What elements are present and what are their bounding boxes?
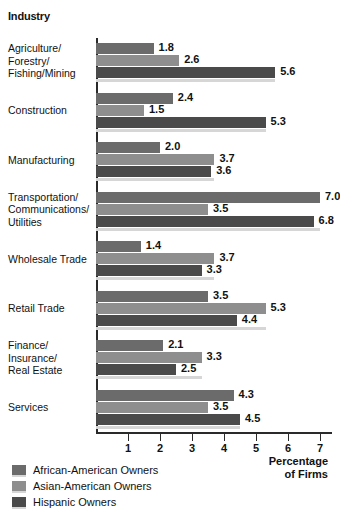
bar-value-label: 2.6 <box>184 53 199 65</box>
group-baseline-shadow <box>96 129 266 132</box>
bar-value-label: 3.5 <box>213 202 228 214</box>
legend-swatch <box>12 465 26 475</box>
bar[interactable] <box>96 142 160 153</box>
legend-item[interactable]: Asian-American Owners <box>12 478 158 493</box>
bar-value-label: 5.3 <box>271 115 286 127</box>
group-baseline-shadow <box>96 426 240 429</box>
bar-value-label: 2.0 <box>165 140 180 152</box>
category-label: Finance/Insurance/Real Estate <box>8 339 94 377</box>
bar[interactable] <box>96 315 237 326</box>
category-label: Manufacturing <box>8 154 94 167</box>
legend-item[interactable]: African-American Owners <box>12 462 158 477</box>
category-label-line: Fishing/Mining <box>8 67 94 80</box>
bar[interactable] <box>96 204 208 215</box>
bar-row: 1.8 <box>96 43 332 54</box>
group-baseline-shadow <box>96 178 214 181</box>
bar-row: 5.3 <box>96 303 332 314</box>
category-label-line: Manufacturing <box>8 154 94 167</box>
x-axis-tick <box>256 434 257 441</box>
category-label: Services <box>8 401 94 414</box>
x-axis-title-line1: Percentage <box>218 455 328 468</box>
category-label-line: Wholesale Trade <box>8 253 94 266</box>
bar-row: 1.5 <box>96 105 332 116</box>
category-label-line: Agriculture/ <box>8 42 94 55</box>
bar-row: 3.7 <box>96 154 332 165</box>
bar-row: 2.6 <box>96 55 332 66</box>
x-axis-tick-label: 5 <box>253 442 259 454</box>
bar-value-label: 4.3 <box>239 388 254 400</box>
chart-legend: African-American OwnersAsian-American Ow… <box>12 462 158 510</box>
bar-group: 1.82.65.6 <box>96 43 332 79</box>
bar-row: 4.5 <box>96 414 332 425</box>
category-label: Wholesale Trade <box>8 253 94 266</box>
bar-value-label: 3.7 <box>219 152 234 164</box>
x-axis-title: Percentage of Firms <box>218 455 328 481</box>
legend-swatch <box>12 481 26 491</box>
bar[interactable] <box>96 253 214 264</box>
bar[interactable] <box>96 241 141 252</box>
bar[interactable] <box>96 67 275 78</box>
bar-row: 6.8 <box>96 216 332 227</box>
bar-row: 5.6 <box>96 67 332 78</box>
bar[interactable] <box>96 166 211 177</box>
x-axis-tick-label: 2 <box>157 442 163 454</box>
bar-value-label: 3.3 <box>207 263 222 275</box>
x-axis-tick-label: 3 <box>189 442 195 454</box>
bar[interactable] <box>96 117 266 128</box>
bar-row: 2.5 <box>96 364 332 375</box>
bar[interactable] <box>96 303 266 314</box>
bar-row: 4.4 <box>96 315 332 326</box>
bar-value-label: 2.5 <box>181 362 196 374</box>
x-axis-tick <box>288 434 289 441</box>
bar-group: 2.41.55.3 <box>96 93 332 129</box>
x-axis-tick <box>160 434 161 441</box>
bar-row: 3.5 <box>96 402 332 413</box>
bar-value-label: 3.6 <box>216 164 231 176</box>
industry-axis-title: Industry <box>8 10 50 22</box>
x-axis-title-line2: of Firms <box>218 468 328 481</box>
category-label-line: Transportation/ <box>8 191 94 204</box>
legend-label: Hispanic Owners <box>33 496 116 508</box>
category-label: Retail Trade <box>8 302 94 315</box>
bar[interactable] <box>96 192 320 203</box>
category-label-line: Construction <box>8 104 94 117</box>
bar-row: 3.6 <box>96 166 332 177</box>
bar-value-label: 1.5 <box>149 103 164 115</box>
bar-value-label: 1.8 <box>159 41 174 53</box>
category-label-line: Communications/ <box>8 203 94 216</box>
bar[interactable] <box>96 105 144 116</box>
x-axis-tick <box>128 434 129 441</box>
legend-item[interactable]: Hispanic Owners <box>12 494 158 509</box>
bar-group: 7.03.56.8 <box>96 192 332 228</box>
bar-value-label: 3.5 <box>213 400 228 412</box>
x-axis-line <box>96 432 332 434</box>
category-label: Agriculture/Forestry/Fishing/Mining <box>8 42 94 80</box>
bar[interactable] <box>96 364 176 375</box>
legend-label: African-American Owners <box>33 464 158 476</box>
category-label-line: Services <box>8 401 94 414</box>
bar[interactable] <box>96 55 179 66</box>
bar[interactable] <box>96 216 314 227</box>
x-axis-tick-label: 6 <box>285 442 291 454</box>
bar-row: 3.5 <box>96 291 332 302</box>
bar-value-label: 4.5 <box>245 412 260 424</box>
category-label-line: Forestry/ <box>8 55 94 68</box>
bar-group: 4.33.54.5 <box>96 390 332 426</box>
bar-value-label: 2.4 <box>178 91 193 103</box>
plot-area: 1.82.65.62.41.55.32.03.73.67.03.56.81.43… <box>96 38 332 434</box>
group-baseline-shadow <box>96 79 275 82</box>
x-axis-tick-label: 7 <box>317 442 323 454</box>
bar[interactable] <box>96 414 240 425</box>
bar-value-label: 3.3 <box>207 350 222 362</box>
bar[interactable] <box>96 154 214 165</box>
category-label-line: Finance/ <box>8 339 94 352</box>
bar-value-label: 6.8 <box>319 214 334 226</box>
bar[interactable] <box>96 340 163 351</box>
bar-value-label: 1.4 <box>146 239 161 251</box>
bar[interactable] <box>96 291 208 302</box>
category-label: Transportation/Communications/Utilities <box>8 191 94 229</box>
bar[interactable] <box>96 43 154 54</box>
bar-group: 2.03.73.6 <box>96 142 332 178</box>
bar[interactable] <box>96 402 208 413</box>
bar[interactable] <box>96 265 202 276</box>
